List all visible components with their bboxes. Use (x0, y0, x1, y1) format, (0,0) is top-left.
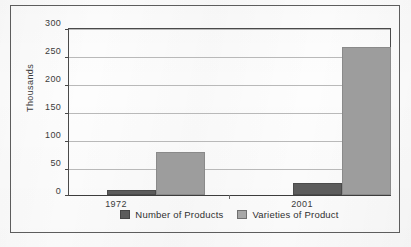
legend-item-varieties-of-product[interactable]: Varieties of Product (237, 209, 338, 220)
y-tick-mark-50 (65, 169, 69, 170)
plot-area (68, 28, 391, 196)
x-tick-label-1972: 1972 (105, 199, 127, 209)
y-tick-label-200: 200 (45, 74, 61, 84)
bar-2001-varieties-of-product (342, 47, 391, 195)
y-tick-mark-100 (65, 141, 69, 142)
y-tick-label-250: 250 (45, 46, 61, 56)
legend-label-varieties-of-product: Varieties of Product (252, 209, 338, 220)
bar-1972-varieties-of-product (156, 152, 205, 195)
bar-2001-number-of-products (293, 183, 342, 195)
y-tick-label-50: 50 (50, 158, 61, 168)
legend-swatch-icon-light (237, 210, 247, 219)
y-tick-label-300: 300 (45, 18, 61, 28)
legend-item-number-of-products[interactable]: Number of Products (120, 209, 223, 220)
x-tick-label-2001: 2001 (291, 199, 313, 209)
y-tick-label-150: 150 (45, 102, 61, 112)
y-tick-label-0: 0 (56, 186, 61, 196)
y-tick-mark-250 (65, 57, 69, 58)
x-tick-mark-midpoint (229, 195, 230, 199)
chart-legend: Number of Products Varieties of Product (68, 209, 391, 220)
gridline-300 (69, 29, 390, 30)
y-tick-mark-200 (65, 85, 69, 86)
bar-1972-number-of-products (107, 190, 156, 195)
y-tick-mark-300 (65, 29, 69, 30)
y-axis-tick-labels: 300 250 200 150 100 50 0 (11, 6, 65, 247)
legend-label-number-of-products: Number of Products (135, 209, 223, 220)
chart-figure-frame: Thousands 300 250 200 150 100 50 0 (10, 5, 400, 233)
y-tick-mark-150 (65, 113, 69, 114)
legend-swatch-icon-dark (120, 210, 130, 219)
y-tick-label-100: 100 (45, 130, 61, 140)
y-tick-mark-0 (65, 195, 69, 196)
